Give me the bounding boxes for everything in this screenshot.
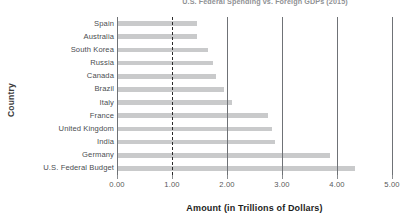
gridline-0.00 — [117, 17, 118, 175]
x-tick-label: 2.00 — [207, 180, 247, 189]
x-tick-1.00 — [172, 175, 173, 179]
bar[interactable] — [117, 34, 197, 39]
plot-area: 0.001.002.003.004.005.00 — [117, 17, 392, 175]
bar[interactable] — [117, 21, 197, 26]
y-tick-label: U.S. Federal Budget — [0, 163, 114, 172]
bar-row[interactable] — [117, 110, 392, 122]
y-tick-label: Italy — [0, 98, 114, 107]
bar-row[interactable] — [117, 18, 392, 30]
bar-row[interactable] — [117, 70, 392, 82]
bar[interactable] — [117, 100, 232, 105]
bar[interactable] — [117, 153, 330, 158]
bar-row[interactable] — [117, 162, 392, 174]
bar[interactable] — [117, 127, 272, 132]
bar[interactable] — [117, 140, 275, 145]
bar[interactable] — [117, 61, 213, 66]
x-tick-label: 0.00 — [97, 180, 137, 189]
x-tick-3.00 — [282, 175, 283, 179]
gridline-2.00 — [227, 17, 228, 175]
bar-row[interactable] — [117, 31, 392, 43]
bar[interactable] — [117, 166, 355, 171]
bar[interactable] — [117, 74, 216, 79]
x-tick-4.00 — [337, 175, 338, 179]
x-tick-label: 4.00 — [317, 180, 357, 189]
bar-series — [117, 17, 392, 175]
bar-row[interactable] — [117, 57, 392, 69]
gridline-4.00 — [337, 17, 338, 175]
y-tick-label: Spain — [0, 19, 114, 28]
bar[interactable] — [117, 87, 224, 92]
x-tick-label: 3.00 — [262, 180, 302, 189]
x-tick-2.00 — [227, 175, 228, 179]
y-tick-label: United Kingdom — [0, 124, 114, 133]
gridline-1.00 — [172, 17, 174, 175]
y-tick-label: Canada — [0, 71, 114, 80]
y-tick-label: India — [0, 137, 114, 146]
y-tick-label: Australia — [0, 32, 114, 41]
bar-chart: U.S. Federal Spending vs. Foreign GDPs (… — [0, 0, 411, 221]
x-tick-label: 1.00 — [152, 180, 192, 189]
y-tick-label: South Korea — [0, 45, 114, 54]
bar-row[interactable] — [117, 149, 392, 161]
bar[interactable] — [117, 113, 268, 118]
y-tick-label: France — [0, 111, 114, 120]
bar[interactable] — [117, 48, 208, 53]
y-tick-label: Brazil — [0, 84, 114, 93]
y-tick-label: Germany — [0, 150, 114, 159]
bar-row[interactable] — [117, 83, 392, 95]
y-tick-label: Russia — [0, 58, 114, 67]
bar-row[interactable] — [117, 136, 392, 148]
gridline-3.00 — [282, 17, 283, 175]
x-axis-title: Amount (in Trillions of Dollars) — [117, 203, 392, 213]
chart-title: U.S. Federal Spending vs. Foreign GDPs (… — [150, 0, 380, 6]
x-tick-0.00 — [117, 175, 118, 179]
x-tick-label: 5.00 — [372, 180, 411, 189]
bar-row[interactable] — [117, 44, 392, 56]
bar-row[interactable] — [117, 97, 392, 109]
gridline-5.00 — [392, 17, 393, 175]
x-tick-5.00 — [392, 175, 393, 179]
bar-row[interactable] — [117, 123, 392, 135]
